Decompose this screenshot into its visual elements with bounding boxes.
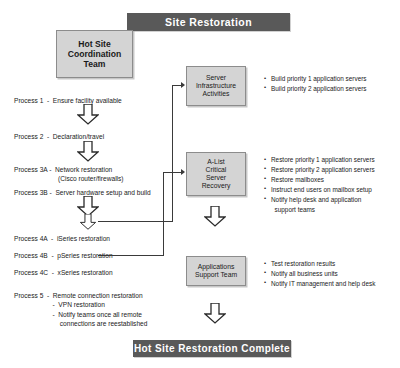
hot-site-coordination-team-label: Hot Site Coordination Team (68, 39, 121, 69)
list-item: Notify help desk and application support… (264, 195, 375, 215)
list-item: Restore priority 2 application servers (264, 165, 375, 175)
process-1-label: Process 1 - Ensure facility available (14, 96, 122, 105)
list-item: Notify IT management and help desk (264, 279, 375, 289)
list-item: Build priority 2 application servers (264, 84, 367, 94)
server-infrastructure-activities-box: Server Infrastructure Activities (186, 66, 246, 106)
connector-line-inner-bottom (98, 255, 164, 256)
applications-support-team-label: Applications Support Team (195, 263, 237, 279)
process-4c-label: Process 4C - xSeries restoration (14, 268, 113, 277)
applications-support-team-box: Applications Support Team (186, 256, 246, 286)
list-item: Instruct end users on mailbox setup (264, 185, 375, 195)
list-item: Restore priority 1 application servers (264, 155, 375, 165)
down-arrow-icon (77, 104, 99, 125)
connector-line-outer-bottom (98, 221, 173, 222)
list-item: Build priority 1 application servers (264, 74, 367, 84)
server-infrastructure-bullet-list: Build priority 1 application servers Bui… (264, 74, 367, 94)
arrowhead-icon (181, 169, 185, 175)
alist-critical-server-recovery-box: A-List Critical Server Recovery (186, 152, 246, 196)
diagram-canvas: Site Restoration Hot Site Coordination T… (0, 0, 400, 368)
down-arrow-icon (204, 303, 226, 324)
alist-critical-server-recovery-label: A-List Critical Server Recovery (202, 158, 231, 190)
list-item: Notify all business units (264, 269, 375, 279)
connector-line-outer-vertical (172, 85, 173, 222)
list-item: Restore mailboxes (264, 175, 375, 185)
process-3a-label: Process 3A - Network restoration (Cisco … (14, 165, 124, 184)
alist-bullet-list: Restore priority 1 application servers R… (264, 155, 375, 215)
connector-line-to-alist (163, 172, 182, 173)
down-arrow-icon (77, 141, 99, 162)
connector-line-inner-vertical (163, 172, 164, 256)
hot-site-restoration-complete-banner: Hot Site Restoration Complete (133, 340, 291, 357)
process-2-label: Process 2 - Declaration/travel (14, 132, 104, 141)
applications-support-bullet-list: Test restoration results Notify all busi… (264, 259, 375, 289)
down-arrow-icon (77, 214, 99, 230)
list-item: Test restoration results (264, 259, 375, 269)
down-arrow-icon (204, 206, 226, 227)
arrowhead-icon (181, 82, 185, 88)
process-5-label: Process 5 - Remote connection restoratio… (14, 291, 147, 328)
hot-site-coordination-team-box: Hot Site Coordination Team (56, 30, 133, 78)
server-infrastructure-activities-label: Server Infrastructure Activities (196, 74, 236, 98)
process-4a-label: Process 4A - iSeries restoration (14, 234, 110, 243)
site-restoration-title-banner: Site Restoration (127, 13, 290, 31)
